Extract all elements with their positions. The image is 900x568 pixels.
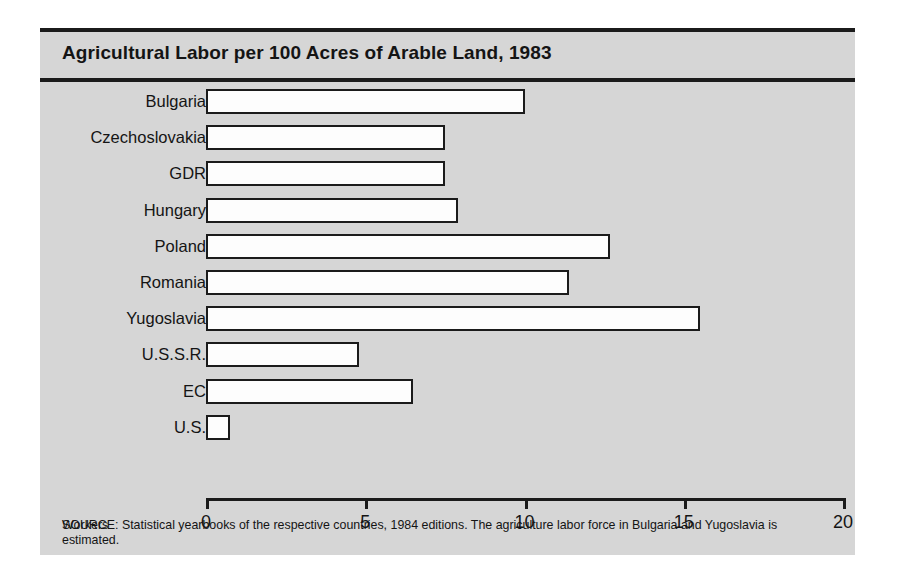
bar xyxy=(206,342,359,367)
bar-row: EC xyxy=(40,376,855,410)
bar xyxy=(206,379,413,404)
category-label: Poland xyxy=(0,237,206,256)
category-label: U.S. xyxy=(0,418,206,437)
category-label: GDR xyxy=(0,164,206,183)
x-axis-tick xyxy=(843,498,846,509)
bar xyxy=(206,125,445,150)
x-axis-tick xyxy=(206,498,209,509)
x-axis-tick-label: 20 xyxy=(813,512,873,533)
bar xyxy=(206,198,458,223)
bar-row: Czechoslovakia xyxy=(40,122,855,156)
bar-row: Romania xyxy=(40,267,855,301)
chart-figure: Agricultural Labor per 100 Acres of Arab… xyxy=(40,28,855,555)
category-label: EC xyxy=(0,382,206,401)
chart-title: Agricultural Labor per 100 Acres of Arab… xyxy=(62,42,552,64)
bar xyxy=(206,270,569,295)
bar-row: U.S. xyxy=(40,412,855,446)
bar-row: Yugoslavia xyxy=(40,303,855,337)
bar-row: Bulgaria xyxy=(40,86,855,120)
bar-row: GDR xyxy=(40,158,855,192)
category-label: Czechoslovakia xyxy=(0,128,206,147)
bar xyxy=(206,161,445,186)
bar xyxy=(206,306,700,331)
x-axis-tick xyxy=(365,498,368,509)
title-rule-top xyxy=(40,28,855,32)
bar xyxy=(206,415,230,440)
bar xyxy=(206,234,610,259)
bar-row: Hungary xyxy=(40,195,855,229)
source-note: SOURCE: Statistical yearbooks of the res… xyxy=(62,518,812,547)
x-axis-tick xyxy=(684,498,687,509)
category-label: Bulgaria xyxy=(0,92,206,111)
category-label: Yugoslavia xyxy=(0,309,206,328)
category-label: Romania xyxy=(0,273,206,292)
bar-row: Poland xyxy=(40,231,855,265)
category-label: Hungary xyxy=(0,201,206,220)
bar xyxy=(206,89,525,114)
category-label: U.S.S.R. xyxy=(0,345,206,364)
bar-row: U.S.S.R. xyxy=(40,339,855,373)
x-axis-tick xyxy=(525,498,528,509)
plot-area: BulgariaCzechoslovakiaGDRHungaryPolandRo… xyxy=(40,82,855,500)
